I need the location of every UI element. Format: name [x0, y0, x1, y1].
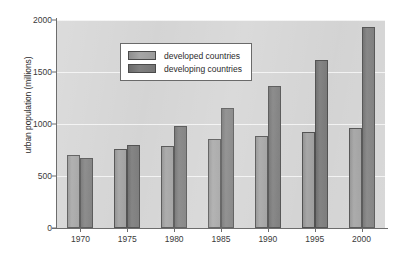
bar-developing [268, 86, 281, 228]
x-axis-line [52, 228, 388, 229]
bar-developed [349, 128, 362, 228]
y-axis-line [56, 18, 57, 229]
y-axis-ticks: 0500100015002000 [0, 0, 52, 257]
bar-developing [127, 145, 140, 228]
bar-developed [302, 132, 315, 228]
legend-item-developed: developed countries [128, 49, 242, 62]
y-tick-label: 2000 [6, 15, 52, 25]
legend-item-developing: developing countries [128, 62, 242, 75]
x-tick-mark [80, 228, 81, 232]
x-tick-label: 2000 [339, 234, 385, 244]
x-tick-mark [174, 228, 175, 232]
y-tick-label: 1000 [6, 119, 52, 129]
x-tick-mark [268, 228, 269, 232]
bar-developing [174, 126, 187, 228]
x-tick-mark [315, 228, 316, 232]
legend-label-developing: developing countries [164, 64, 242, 74]
bar-developing [315, 60, 328, 228]
bar-group [349, 20, 375, 228]
x-tick-label: 1980 [151, 234, 197, 244]
bar-developing [80, 158, 93, 228]
x-tick-label: 1985 [198, 234, 244, 244]
chart-screenshot: urban population (millions) 050010001500… [0, 0, 400, 257]
x-tick-mark [127, 228, 128, 232]
x-tick-label: 1975 [104, 234, 150, 244]
bar-developing [362, 27, 375, 228]
bar-group [67, 20, 93, 228]
bar-developed [161, 146, 174, 228]
x-tick-label: 1990 [245, 234, 291, 244]
bar-developed [114, 149, 127, 228]
legend-swatch-developing [128, 64, 156, 73]
bar-developed [208, 139, 221, 228]
x-tick-mark [221, 228, 222, 232]
chart-legend: developed countries developing countries [120, 43, 252, 81]
x-tick-mark [362, 228, 363, 232]
y-tick-label: 500 [6, 171, 52, 181]
bar-group [302, 20, 328, 228]
plot-area: developed countries developing countries [57, 20, 385, 228]
legend-label-developed: developed countries [164, 51, 240, 61]
bar-developed [67, 155, 80, 228]
bar-developed [255, 136, 268, 228]
x-tick-label: 1970 [57, 234, 103, 244]
y-tick-label: 1500 [6, 67, 52, 77]
x-tick-label: 1995 [292, 234, 338, 244]
y-tick-label: 0 [6, 223, 52, 233]
bar-group [255, 20, 281, 228]
legend-swatch-developed [128, 51, 156, 60]
bar-developing [221, 108, 234, 228]
